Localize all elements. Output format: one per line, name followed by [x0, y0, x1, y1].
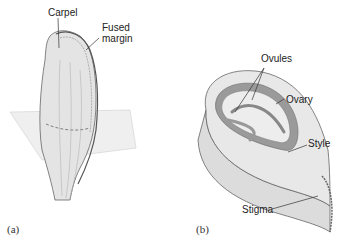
diagram-canvas	[0, 0, 341, 243]
label-fused-margin-line2: margin	[102, 33, 133, 44]
panel-a-label: (a)	[7, 223, 19, 235]
label-stigma: Stigma	[242, 204, 273, 215]
label-ovary: Ovary	[286, 94, 313, 105]
panel-b-label: (b)	[196, 223, 209, 235]
label-ovules: Ovules	[261, 53, 292, 64]
label-carpel: Carpel	[48, 7, 77, 18]
carpel-illustration	[10, 18, 136, 200]
label-fused-margin-line1: Fused	[102, 22, 130, 33]
label-style: Style	[308, 138, 330, 149]
